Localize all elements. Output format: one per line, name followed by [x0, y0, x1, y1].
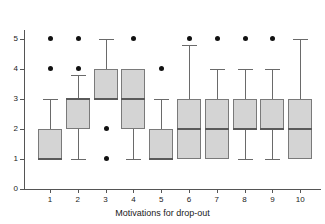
whisker-upper: [50, 99, 51, 129]
box-rect: [149, 129, 173, 159]
x-axis-title: Motivations for drop-out: [0, 208, 325, 218]
boxplot-chart: 012345 12345678910 Motivations for drop-…: [0, 0, 325, 224]
whisker-upper: [161, 99, 162, 129]
whisker-cap-upper: [210, 69, 225, 70]
outlier-point: [76, 66, 81, 71]
whisker-lower: [272, 129, 273, 159]
whisker-lower: [133, 129, 134, 159]
box-rect: [94, 69, 118, 99]
x-tick-label: 4: [121, 196, 145, 204]
box-rect: [66, 99, 90, 129]
median-line: [121, 98, 145, 100]
box-rect: [38, 129, 62, 159]
whisker-upper: [272, 69, 273, 99]
y-tick-label: 2: [4, 125, 18, 133]
outlier-point: [48, 36, 53, 41]
whisker-cap-lower: [238, 159, 253, 160]
x-tick-mark: [300, 189, 301, 193]
x-tick-label: 6: [177, 196, 201, 204]
outlier-point: [131, 36, 136, 41]
whisker-upper: [245, 69, 246, 99]
y-tick-label: 5: [4, 35, 18, 43]
whisker-cap-upper: [154, 99, 169, 100]
outlier-point: [104, 156, 109, 161]
x-tick-mark: [50, 189, 51, 193]
whisker-cap-upper: [293, 39, 308, 40]
whisker-cap-lower: [71, 159, 86, 160]
outlier-point: [215, 36, 220, 41]
whisker-cap-lower: [265, 159, 280, 160]
y-tick-mark: [20, 99, 24, 100]
whisker-lower: [245, 129, 246, 159]
y-tick-label: 0: [4, 185, 18, 193]
outlier-point: [159, 66, 164, 71]
whisker-upper: [106, 39, 107, 69]
x-tick-label: 1: [38, 196, 62, 204]
whisker-upper: [189, 45, 190, 99]
whisker-upper: [300, 39, 301, 99]
median-line: [38, 158, 62, 160]
outlier-point: [104, 126, 109, 131]
whisker-cap-upper: [238, 69, 253, 70]
whisker-cap-lower: [126, 159, 141, 160]
whisker-cap-upper: [182, 45, 197, 46]
y-axis-line: [24, 30, 25, 189]
outlier-point: [270, 36, 275, 41]
median-line: [260, 128, 284, 130]
x-tick-label: 5: [149, 196, 173, 204]
outlier-point: [48, 66, 53, 71]
y-tick-mark: [20, 189, 24, 190]
whisker-cap-upper: [71, 75, 86, 76]
x-tick-mark: [189, 189, 190, 193]
whisker-cap-upper: [265, 69, 280, 70]
median-line: [66, 98, 90, 100]
x-tick-label: 8: [233, 196, 257, 204]
median-line: [94, 98, 118, 100]
y-tick-mark: [20, 159, 24, 160]
x-axis-line: [24, 189, 321, 190]
y-tick-mark: [20, 69, 24, 70]
whisker-cap-upper: [99, 39, 114, 40]
box-rect: [260, 99, 284, 129]
x-tick-label: 2: [66, 196, 90, 204]
median-line: [177, 128, 201, 130]
y-tick-label: 1: [4, 155, 18, 163]
median-line: [149, 158, 173, 160]
x-tick-mark: [106, 189, 107, 193]
whisker-upper: [78, 75, 79, 99]
whisker-lower: [78, 129, 79, 159]
x-tick-label: 3: [94, 196, 118, 204]
x-tick-mark: [133, 189, 134, 193]
x-tick-mark: [161, 189, 162, 193]
box-rect: [233, 99, 257, 129]
x-tick-mark: [245, 189, 246, 193]
outlier-point: [76, 36, 81, 41]
y-tick-label: 4: [4, 65, 18, 73]
whisker-cap-upper: [43, 99, 58, 100]
median-line: [233, 128, 257, 130]
x-tick-label: 10: [288, 196, 312, 204]
x-tick-label: 7: [205, 196, 229, 204]
whisker-upper: [217, 69, 218, 99]
outlier-point: [243, 36, 248, 41]
y-tick-label: 3: [4, 95, 18, 103]
x-tick-mark: [272, 189, 273, 193]
y-tick-mark: [20, 129, 24, 130]
x-tick-mark: [217, 189, 218, 193]
y-tick-mark: [20, 39, 24, 40]
x-tick-label: 9: [260, 196, 284, 204]
outlier-point: [187, 36, 192, 41]
median-line: [288, 128, 312, 130]
median-line: [205, 128, 229, 130]
x-tick-mark: [78, 189, 79, 193]
